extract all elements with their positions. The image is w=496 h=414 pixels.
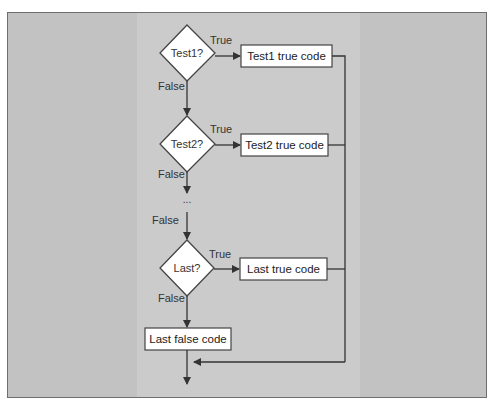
process-last-false-code: Last false code [145, 328, 231, 350]
process-test1-true-code: Test1 true code [241, 45, 332, 67]
decision-test1-false-label: False [158, 80, 185, 92]
decision-test2-false-label: False [158, 168, 185, 180]
decision-last: Last? True False [158, 240, 231, 304]
process-test2-true-code: Test2 true code [241, 134, 328, 156]
decision-last-label: Last? [174, 262, 201, 274]
decision-test1-label: Test1? [171, 47, 203, 59]
decision-last-false-label: False [158, 292, 185, 304]
process-test2-true-code-label: Test2 true code [245, 139, 324, 151]
ellipsis: ... [183, 194, 191, 205]
process-last-true-code: Last true code [240, 258, 327, 280]
process-last-false-code-label: Last false code [149, 333, 226, 345]
ellipsis-false-label: False [152, 214, 179, 226]
decision-last-true-label: True [209, 248, 231, 260]
decision-test1: Test1? True False [158, 25, 232, 92]
process-test1-true-code-label: Test1 true code [247, 50, 326, 62]
decision-test2-label: Test2? [171, 138, 203, 150]
decision-test1-true-label: True [210, 34, 232, 46]
decision-test2: Test2? True False [158, 116, 232, 180]
flowchart-canvas: Test1? True False Test1 true code Test2?… [0, 0, 496, 414]
process-last-true-code-label: Last true code [247, 263, 320, 275]
merge-line [332, 56, 345, 362]
decision-test2-true-label: True [210, 123, 232, 135]
